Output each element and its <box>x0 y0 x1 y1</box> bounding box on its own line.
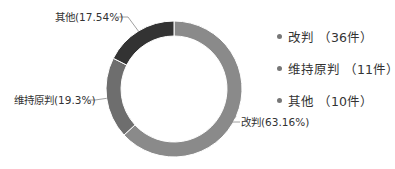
chart-legend: 改判 （36件） 维持原判 （11件） 其他 （10件） <box>277 20 395 116</box>
donut-slice[interactable] <box>113 21 174 65</box>
legend-dot-icon <box>277 98 282 103</box>
legend-label: 其他 （10件） <box>288 91 373 110</box>
donut-slice[interactable] <box>106 58 135 135</box>
legend-dot-icon <box>277 66 282 71</box>
legend-item-qita[interactable]: 其他 （10件） <box>277 84 395 116</box>
slice-label-qita: 其他(17.54%) <box>55 11 123 23</box>
legend-item-gaipan[interactable]: 改判 （36件） <box>277 20 395 52</box>
slice-label-weichi: 维持原判(19.3%) <box>14 94 96 106</box>
slice-label-gaipan: 改判(63.16%) <box>241 116 309 128</box>
legend-label: 改判 （36件） <box>288 27 373 46</box>
donut-slices <box>106 21 242 157</box>
legend-label: 维持原判 （11件） <box>288 59 395 78</box>
legend-item-weichi[interactable]: 维持原判 （11件） <box>277 52 395 84</box>
legend-dot-icon <box>277 34 282 39</box>
